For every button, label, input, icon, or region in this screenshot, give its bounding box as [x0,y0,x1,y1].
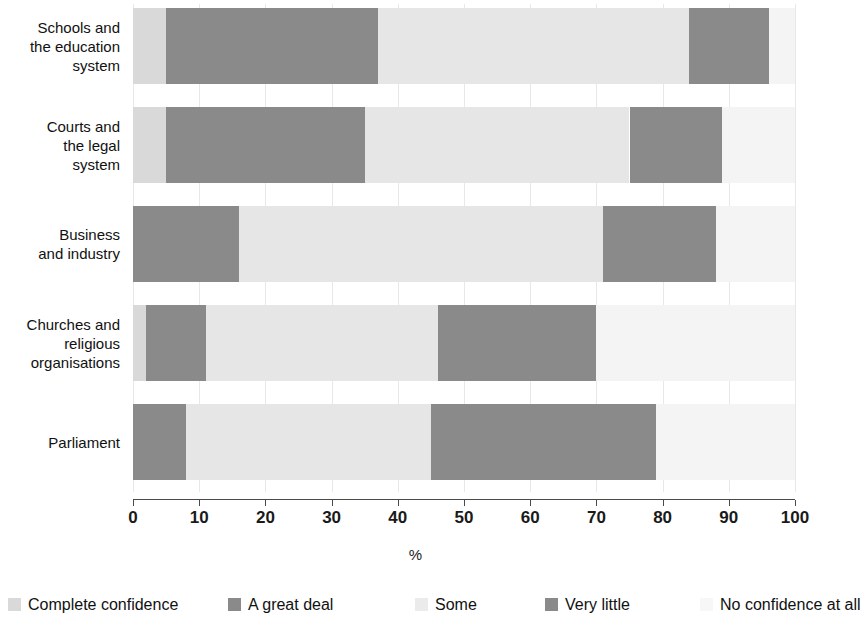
legend-label: No confidence at all [720,596,861,614]
bar-segment [722,107,795,183]
stacked-bar [133,305,795,381]
x-tick [729,500,730,506]
bar-segment [133,305,146,381]
x-tick-label: 50 [434,508,494,528]
legend-item[interactable]: Some [415,588,477,621]
category-label: Churches and religious organisations [0,315,120,372]
legend-label: A great deal [248,596,333,614]
stacked-bar [133,8,795,84]
bar-segment [206,305,438,381]
x-tick-label: 30 [302,508,362,528]
stacked-bar [133,107,795,183]
x-tick-label: 20 [235,508,295,528]
x-tick-label: 90 [699,508,759,528]
bar-segment [438,305,597,381]
x-tick [596,500,597,506]
bar-row: Business and industry [0,206,831,282]
legend-item[interactable]: Very little [545,588,630,621]
bar-segment [186,404,431,480]
x-tick [663,500,664,506]
bar-segment [166,8,378,84]
x-tick-label: 70 [566,508,626,528]
bar-segment [365,107,630,183]
bar-segment [133,107,166,183]
legend-item[interactable]: A great deal [228,588,333,621]
bar-segment [630,107,723,183]
legend-swatch-icon [228,598,241,611]
bar-segment [716,206,795,282]
x-tick [795,500,796,506]
stacked-bar [133,206,795,282]
legend-swatch-icon [8,598,21,611]
x-tick-label: 80 [633,508,693,528]
category-label: Business and industry [0,225,120,263]
x-tick [265,500,266,506]
bar-segment [133,206,239,282]
category-label: Parliament [0,433,120,452]
bar-segment [133,404,186,480]
x-tick [199,500,200,506]
chart-legend: Complete confidenceA great dealSomeVery … [0,588,831,621]
legend-swatch-icon [415,598,428,611]
legend-label: Complete confidence [28,596,178,614]
bar-row: Courts and the legal system [0,107,831,183]
legend-item[interactable]: Complete confidence [8,588,178,621]
legend-swatch-icon [700,598,713,611]
bar-segment [596,305,795,381]
bar-segment [689,8,768,84]
x-tick-label: 40 [368,508,428,528]
x-axis-title: % [0,546,831,563]
category-label: Schools and the education system [0,18,120,75]
legend-label: Very little [565,596,630,614]
bar-segment [146,305,206,381]
bar-segment [239,206,603,282]
x-tick [398,500,399,506]
plot-area: Schools and the education systemCourts a… [0,0,831,500]
legend-item[interactable]: No confidence at all [700,588,861,621]
bar-segment [656,404,795,480]
bar-segment [603,206,716,282]
bar-segment [133,8,166,84]
legend-label: Some [435,596,477,614]
bar-segment [166,107,365,183]
bar-segment [769,8,795,84]
bar-row: Churches and religious organisations [0,305,831,381]
bar-segment [378,8,689,84]
x-tick-label: 0 [103,508,163,528]
x-tick [464,500,465,506]
x-tick [332,500,333,506]
x-tick-label: 60 [500,508,560,528]
x-tick [530,500,531,506]
legend-swatch-icon [545,598,558,611]
bar-row: Schools and the education system [0,8,831,84]
category-label: Courts and the legal system [0,117,120,174]
bar-segment [431,404,656,480]
x-tick [133,500,134,506]
x-tick-label: 10 [169,508,229,528]
x-tick-label: 100 [765,508,825,528]
bar-row: Parliament [0,404,831,480]
stacked-bar [133,404,795,480]
